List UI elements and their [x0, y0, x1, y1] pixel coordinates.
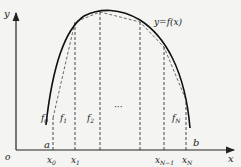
endpoint-a-label: a	[44, 139, 50, 150]
origin-label: o	[5, 152, 11, 162]
endpoint-b-label: b	[193, 137, 199, 148]
segment-label-fN: fN	[171, 113, 181, 124]
curve-label: y=f(x)	[153, 17, 183, 27]
node-label-x1: x1	[71, 155, 80, 166]
node-label-xN-1: xN−1	[155, 155, 174, 166]
node-label-x0: x0	[47, 155, 56, 166]
x-axis-label: x	[228, 153, 234, 164]
segment-label-f2: f2	[86, 113, 94, 124]
piecewise-approximation-diagram: y x o y=f(x) a b x0 x1 xN−1 xN f0 f1 f2 …	[0, 0, 241, 167]
segment-label-f1: f1	[59, 113, 67, 124]
ellipsis: ···	[114, 102, 123, 112]
y-axis-label: y	[3, 8, 10, 19]
node-label-xN: xN	[182, 155, 193, 166]
